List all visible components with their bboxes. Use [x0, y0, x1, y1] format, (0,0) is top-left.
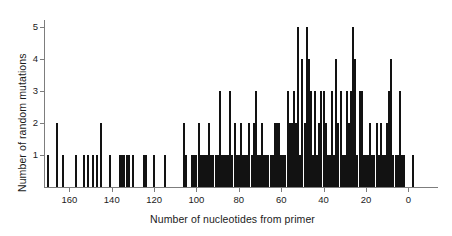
- histogram-bar: [92, 155, 94, 187]
- histogram-bar: [87, 155, 89, 187]
- x-tick-mark: [324, 188, 325, 192]
- histogram-bar: [145, 155, 147, 187]
- x-tick-label: 160: [54, 194, 84, 205]
- histogram-bar: [164, 155, 166, 187]
- histogram-bar: [185, 155, 187, 187]
- histogram-bar: [100, 123, 102, 187]
- x-tick-mark: [69, 188, 70, 192]
- x-tick-label: 0: [393, 194, 423, 205]
- histogram-bar: [403, 155, 405, 187]
- x-tick-label: 20: [351, 194, 381, 205]
- histogram-bar: [75, 155, 77, 187]
- mutation-histogram-figure: Number of random mutations 12345 1601401…: [0, 0, 452, 236]
- y-tick-mark: [40, 123, 44, 124]
- histogram-bar: [83, 155, 85, 187]
- x-tick-mark: [239, 188, 240, 192]
- x-tick-label: 100: [181, 194, 211, 205]
- x-tick-label: 120: [139, 194, 169, 205]
- x-tick-label: 40: [309, 194, 339, 205]
- x-tick-label: 80: [224, 194, 254, 205]
- x-tick-mark: [196, 188, 197, 192]
- x-tick-mark: [112, 188, 113, 192]
- x-axis-label: Number of nucleotides from primer: [44, 213, 421, 225]
- x-tick-label: 60: [266, 194, 296, 205]
- x-tick-mark: [154, 188, 155, 192]
- y-tick-mark: [40, 27, 44, 28]
- histogram-bar: [96, 155, 98, 187]
- histogram-bar: [153, 155, 155, 187]
- histogram-bar: [47, 155, 49, 187]
- x-tick-label: 140: [97, 194, 127, 205]
- x-tick-mark: [408, 188, 409, 192]
- histogram-bar: [56, 123, 58, 187]
- histogram-bar: [62, 155, 64, 187]
- histogram-bar: [132, 155, 134, 187]
- histogram-bar: [109, 155, 111, 187]
- y-tick-mark: [40, 91, 44, 92]
- histogram-bar: [412, 155, 414, 187]
- y-tick-mark: [40, 155, 44, 156]
- x-tick-mark: [281, 188, 282, 192]
- histogram-bar: [128, 155, 130, 187]
- y-tick-mark: [40, 59, 44, 60]
- x-tick-mark: [366, 188, 367, 192]
